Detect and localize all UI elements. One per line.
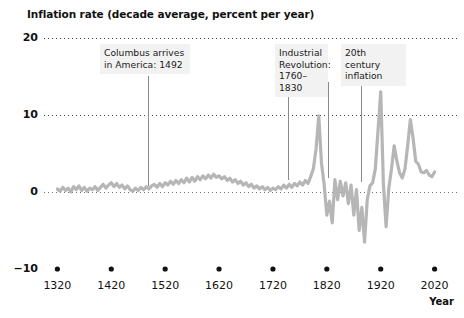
y-tick-label--10: −10 <box>8 262 38 275</box>
annotation-industrial-revolution: Industrial Revolution: 1760–1830 <box>275 44 328 97</box>
y-tick-label-10: 10 <box>8 108 38 121</box>
x-tick-label-2020: 2020 <box>415 279 455 292</box>
x-tick-label-1320: 1320 <box>37 279 77 292</box>
y-tick-label-0: 0 <box>8 185 38 198</box>
x-tick-dot-1420 <box>109 266 114 271</box>
series-line-0 <box>57 92 434 242</box>
x-tick-label-1820: 1820 <box>307 279 347 292</box>
y-tick-label-20: 20 <box>8 31 38 44</box>
x-tick-dot-1320 <box>55 266 60 271</box>
x-tick-label-1720: 1720 <box>253 279 293 292</box>
inflation-rate-chart: Inflation rate (decade average, percent … <box>0 0 464 318</box>
x-tick-label-1520: 1520 <box>145 279 185 292</box>
x-tick-dot-1620 <box>216 266 221 271</box>
x-tick-label-1420: 1420 <box>91 279 131 292</box>
x-tick-dot-1520 <box>163 266 168 271</box>
x-tick-dot-1720 <box>270 266 275 271</box>
x-tick-label-1920: 1920 <box>361 279 401 292</box>
annotation-columbus: Columbus arrives in America: 1492 <box>100 44 190 74</box>
x-tick-dot-2020 <box>432 266 437 271</box>
x-tick-label-1620: 1620 <box>199 279 239 292</box>
data-series-group <box>57 92 434 242</box>
x-tick-dot-1920 <box>378 266 383 271</box>
annotation-leader-lines <box>148 70 361 186</box>
x-tick-dot-1820 <box>324 266 329 271</box>
x-axis-title: Year <box>429 296 454 307</box>
x-tick-marks <box>55 266 437 271</box>
annotation-20th-century-inflation: 20th century inflation <box>341 44 406 86</box>
